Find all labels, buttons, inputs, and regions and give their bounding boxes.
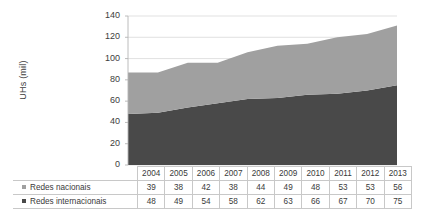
table-cell-value: 75 (384, 195, 411, 209)
y-axis-tick-label: 20 (90, 139, 120, 148)
table-cell-value: 67 (329, 195, 356, 209)
table-header-year: 2005 (165, 167, 192, 181)
table-header-row: 2004200520062007200820092010201120122013 (13, 167, 412, 181)
table-row: Redes internacionais48495458626366677075 (13, 195, 412, 209)
y-axis-tick-label: 140 (90, 11, 120, 20)
table-cell-value: 70 (357, 195, 384, 209)
table-header-year: 2004 (138, 167, 165, 181)
table-cell-value: 39 (138, 181, 165, 195)
legend-swatch-icon (22, 199, 26, 203)
table-header-year: 2013 (384, 167, 411, 181)
table-cell-value: 66 (302, 195, 329, 209)
legend-entry: Redes nacionais (13, 181, 138, 195)
y-axis-tick-label: 40 (90, 117, 120, 126)
table-cell-value: 49 (274, 181, 301, 195)
table-header-year: 2012 (357, 167, 384, 181)
table-cell-value: 48 (302, 181, 329, 195)
y-axis-tick-label: 120 (90, 32, 120, 41)
area-chart-svg (0, 0, 427, 172)
table-header-year: 2011 (329, 167, 356, 181)
plot-area: 140120100806040200 (0, 0, 427, 172)
table-cell-value: 53 (329, 181, 356, 195)
table-cell-value: 38 (165, 181, 192, 195)
table-cell-value: 58 (220, 195, 247, 209)
table-cell-value: 62 (247, 195, 274, 209)
table-cell-value: 53 (357, 181, 384, 195)
table-cell-value: 49 (165, 195, 192, 209)
table-corner-cell (13, 167, 138, 181)
table-header-year: 2010 (302, 167, 329, 181)
table-cell-value: 42 (192, 181, 219, 195)
table-cell-value: 38 (220, 181, 247, 195)
table-cell-value: 48 (138, 195, 165, 209)
table-row: Redes nacionais39384238444948535356 (13, 181, 412, 195)
table-header-year: 2009 (274, 167, 301, 181)
table-header-year: 2008 (247, 167, 274, 181)
stacked-area-chart-figure: UHs (mil) 140120100806040200 20042005200… (0, 0, 427, 220)
y-axis-tick-label: 80 (90, 75, 120, 84)
table-header-year: 2007 (220, 167, 247, 181)
legend-swatch-icon (22, 185, 26, 189)
legend-entry: Redes internacionais (13, 195, 138, 209)
table-cell-value: 54 (192, 195, 219, 209)
table-cell-value: 56 (384, 181, 411, 195)
y-axis-tick-label: 60 (90, 96, 120, 105)
y-axis-tick-label: 100 (90, 54, 120, 63)
chart-data-table: 2004200520062007200820092010201120122013… (13, 166, 412, 209)
table-cell-value: 63 (274, 195, 301, 209)
table-header-year: 2006 (192, 167, 219, 181)
table-cell-value: 44 (247, 181, 274, 195)
legend-label: Redes internacionais (30, 197, 106, 206)
legend-label: Redes nacionais (30, 183, 91, 192)
